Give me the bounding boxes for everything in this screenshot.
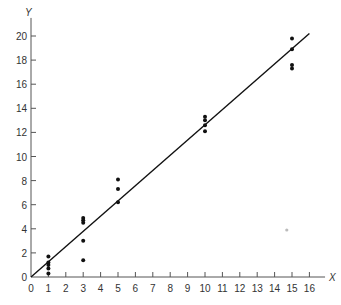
x-tick-label: 10	[199, 283, 211, 294]
y-tick-label: 8	[21, 176, 27, 187]
data-point	[46, 271, 50, 275]
fitted-line	[31, 34, 309, 277]
y-tick-label: 10	[16, 152, 28, 163]
x-tick-label: 4	[98, 283, 104, 294]
y-tick-label: 20	[16, 31, 28, 42]
x-tick-label: 5	[115, 283, 121, 294]
data-point	[46, 255, 50, 259]
y-tick-label: 4	[21, 224, 27, 235]
data-point	[81, 221, 85, 225]
x-tick-label: 8	[167, 283, 173, 294]
y-tick-label: 2	[21, 248, 27, 259]
y-tick-label: 18	[16, 55, 28, 66]
y-axis-ticks: 02468101214161820	[16, 31, 36, 283]
y-tick-label: 16	[16, 79, 28, 90]
data-point	[290, 47, 294, 51]
x-tick-label: 1	[46, 283, 52, 294]
x-axis-label: X	[328, 272, 336, 283]
data-point	[116, 187, 120, 191]
x-tick-label: 7	[150, 283, 156, 294]
x-tick-label: 0	[28, 283, 34, 294]
x-tick-label: 13	[252, 283, 264, 294]
x-tick-label: 15	[286, 283, 298, 294]
scatter-chart: 012345678910111213141516 024681012141618…	[0, 0, 341, 305]
x-tick-label: 11	[217, 283, 228, 294]
data-point	[290, 36, 294, 40]
y-tick-label: 12	[16, 127, 28, 138]
x-tick-label: 16	[304, 283, 316, 294]
data-point	[203, 118, 207, 122]
x-tick-label: 3	[80, 283, 86, 294]
x-tick-label: 6	[133, 283, 139, 294]
data-point	[290, 67, 294, 71]
x-tick-label: 2	[63, 283, 69, 294]
y-tick-label: 0	[21, 272, 27, 283]
y-tick-label: 6	[21, 200, 27, 211]
data-point	[203, 115, 207, 119]
data-point	[81, 258, 85, 262]
x-axis-ticks: 012345678910111213141516	[28, 272, 315, 294]
y-axis-label: Y	[25, 7, 33, 18]
x-tick-label: 14	[269, 283, 281, 294]
data-point	[46, 263, 50, 267]
data-point	[290, 63, 294, 67]
data-point	[46, 267, 50, 271]
data-point	[116, 200, 120, 204]
faint-dot	[285, 228, 288, 231]
data-point	[203, 129, 207, 133]
data-point	[116, 177, 120, 181]
x-tick-label: 12	[234, 283, 246, 294]
data-point	[81, 239, 85, 243]
x-tick-label: 9	[185, 283, 191, 294]
data-point	[203, 123, 207, 127]
y-tick-label: 14	[16, 103, 28, 114]
annotations	[285, 228, 288, 231]
